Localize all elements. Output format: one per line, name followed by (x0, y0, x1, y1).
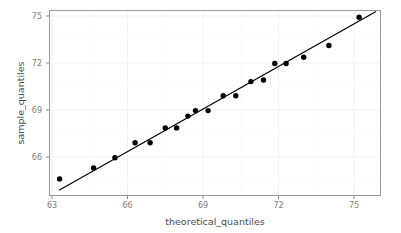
y-tick-label: 75 (32, 12, 42, 21)
data-point (193, 108, 198, 113)
data-point (57, 176, 62, 181)
y-axis-ticks (46, 16, 49, 157)
plot-canvas: 63 66 69 72 75 66 69 72 75 theoretical_q… (0, 0, 401, 233)
y-axis-title: sample_quantiles (15, 61, 26, 144)
data-point (301, 55, 306, 60)
data-point (147, 140, 152, 145)
data-point (221, 93, 226, 98)
data-point (233, 93, 238, 98)
data-point (272, 61, 277, 66)
x-tick-label: 69 (198, 201, 208, 210)
data-point (356, 15, 361, 20)
data-point (174, 125, 179, 130)
y-axis-tick-labels: 66 69 72 75 (32, 12, 42, 162)
data-point (261, 77, 266, 82)
data-point (326, 43, 331, 48)
x-axis-title: theoretical_quantiles (165, 216, 264, 227)
y-tick-label: 72 (32, 59, 42, 68)
y-tick-label: 69 (32, 106, 42, 115)
data-point (112, 155, 117, 160)
data-point (283, 61, 288, 66)
data-point (163, 125, 168, 130)
x-tick-label: 72 (273, 201, 283, 210)
data-point (248, 79, 253, 84)
data-point (91, 165, 96, 170)
x-tick-label: 66 (122, 201, 132, 210)
data-point (132, 140, 137, 145)
x-axis-tick-labels: 63 66 69 72 75 (47, 201, 359, 210)
x-tick-label: 63 (47, 201, 57, 210)
y-tick-label: 66 (32, 153, 42, 162)
x-axis-ticks (52, 196, 354, 199)
x-tick-label: 75 (349, 201, 359, 210)
data-point (185, 113, 190, 118)
qq-plot-figure: 63 66 69 72 75 66 69 72 75 theoretical_q… (0, 0, 401, 233)
data-point (205, 108, 210, 113)
